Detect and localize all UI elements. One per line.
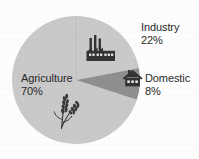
pie-chart-figure: Industry 22% Domestic 8% Agriculture 70% xyxy=(0,0,199,159)
label-industry-name: Industry xyxy=(141,21,179,33)
label-industry: Industry 22% xyxy=(141,21,179,46)
label-industry-percent: 22% xyxy=(141,34,179,47)
label-domestic-name: Domestic xyxy=(145,72,190,84)
label-agriculture-name: Agriculture xyxy=(21,72,72,84)
label-domestic-percent: 8% xyxy=(145,85,190,98)
label-domestic: Domestic 8% xyxy=(145,72,190,97)
label-agriculture: Agriculture 70% xyxy=(21,72,72,97)
label-agriculture-percent: 70% xyxy=(21,85,72,98)
